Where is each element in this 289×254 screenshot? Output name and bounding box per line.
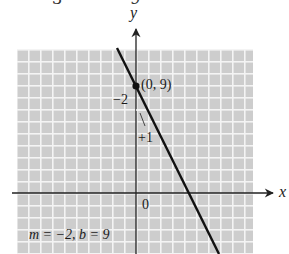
graph-figure: 3 9 y x (0, 9) −2 +1 0 m = — [0, 0, 289, 254]
coordinate-plane — [0, 0, 289, 254]
origin-label: 0 — [142, 198, 149, 212]
y-intercept-point — [132, 82, 139, 89]
y-axis-label: y — [130, 5, 137, 21]
slope-intercept-caption: m = −2, b = 9 — [29, 228, 109, 242]
grid-background — [17, 49, 253, 254]
x-axis-label: x — [279, 184, 286, 200]
point-label: (0, 9) — [141, 78, 171, 92]
rise-label: −2 — [113, 93, 128, 107]
run-label: +1 — [138, 131, 153, 145]
